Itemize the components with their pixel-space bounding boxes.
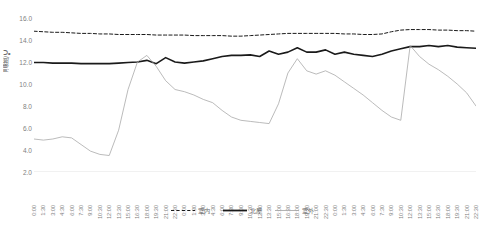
y-tick-label: 6.0 [6, 125, 32, 132]
x-axis-tick-labels: 0:001:303:004:306:007:309:0010:3012:0013… [34, 175, 476, 205]
legend-label: 北屋 [250, 207, 262, 214]
temperature-line-chart: 温度/℃ 16.014.012.010.08.06.04.02.0 0:001:… [0, 0, 485, 229]
legend-swatch-icon [275, 207, 299, 214]
y-tick-label: 16.0 [6, 15, 32, 22]
legend-item[interactable]: 室外 [275, 207, 314, 214]
y-axis-tick-labels: 16.014.012.010.08.06.04.02.0 [4, 18, 32, 172]
y-tick-label: 10.0 [6, 81, 32, 88]
plot-svg [34, 18, 476, 172]
legend-swatch-icon [223, 207, 247, 214]
y-tick-label: 2.0 [6, 169, 32, 176]
y-tick-label: 12.0 [6, 59, 32, 66]
series-line-室外 [34, 46, 476, 156]
y-tick-label: 14.0 [6, 37, 32, 44]
series-line-室内 [34, 30, 476, 37]
y-tick-label: 4.0 [6, 147, 32, 154]
legend-label: 室外 [302, 207, 314, 214]
legend-label: 室内 [198, 207, 210, 214]
legend-item[interactable]: 北屋 [223, 207, 262, 214]
legend-item[interactable]: 室内 [171, 207, 210, 214]
y-tick-label: 8.0 [6, 103, 32, 110]
plot-area [34, 18, 476, 172]
chart-legend: 室内北屋室外 [0, 207, 485, 214]
legend-swatch-icon [171, 207, 195, 214]
